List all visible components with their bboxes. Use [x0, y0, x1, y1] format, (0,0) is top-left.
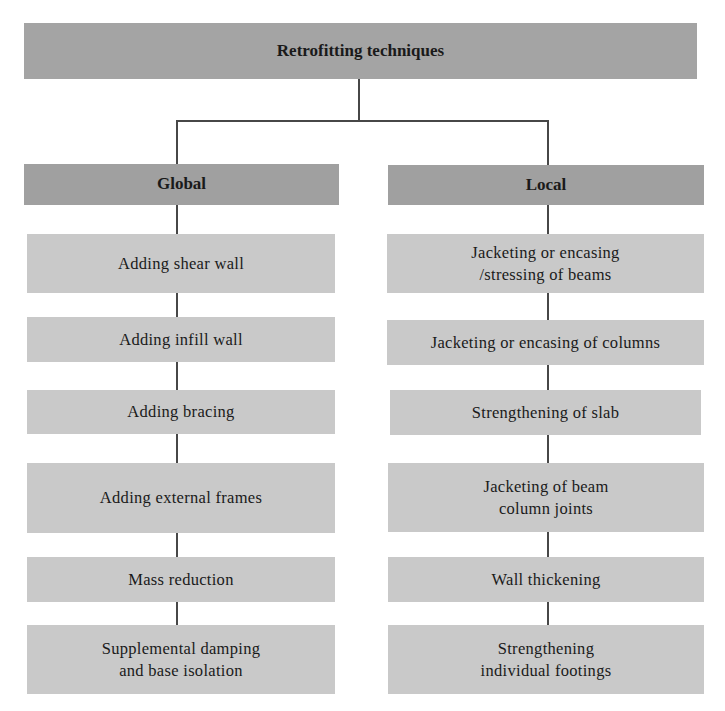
local-connector-3 [547, 365, 549, 390]
root-node: Retrofitting techniques [24, 23, 697, 79]
global-connector-2 [176, 293, 178, 317]
item-label: Adding infill wall [119, 329, 243, 350]
branch-header-global: Global [24, 164, 339, 205]
local-item-wall-thickening: Wall thickening [388, 557, 704, 602]
global-connector-1 [176, 205, 178, 235]
global-item-damping-isolation: Supplemental damping and base isolation [27, 625, 335, 694]
item-label: Mass reduction [128, 569, 233, 590]
item-label: Jacketing or encasing of columns [431, 332, 661, 353]
global-connector-3 [176, 362, 178, 390]
global-item-external-frames: Adding external frames [27, 463, 335, 533]
item-label: Wall thickening [491, 569, 600, 590]
local-connector-2 [547, 293, 549, 320]
local-connector-1 [547, 205, 549, 235]
global-item-bracing: Adding bracing [27, 390, 335, 434]
item-label: Adding external frames [100, 487, 262, 508]
branch-header-label: Local [526, 174, 567, 196]
local-item-slab: Strengthening of slab [390, 390, 701, 435]
global-item-shear-wall: Adding shear wall [27, 234, 335, 293]
local-item-beams: Jacketing or encasing /stressing of beam… [387, 234, 704, 293]
branch-header-local: Local [388, 165, 704, 205]
global-connector-5 [176, 533, 178, 557]
global-connector-4 [176, 434, 178, 463]
local-connector-6 [547, 602, 549, 625]
branch-header-label: Global [157, 173, 206, 195]
global-item-mass-reduction: Mass reduction [27, 557, 335, 602]
root-stem-connector [358, 79, 360, 121]
item-label: Jacketing or encasing /stressing of beam… [471, 242, 619, 285]
branch-horizontal-connector [176, 120, 549, 122]
local-item-footings: Strengthening individual footings [388, 625, 704, 694]
local-connector-5 [547, 532, 549, 557]
local-connector-4 [547, 435, 549, 463]
root-label: Retrofitting techniques [277, 40, 444, 62]
local-item-columns: Jacketing or encasing of columns [387, 320, 704, 365]
item-label: Adding shear wall [118, 253, 244, 274]
local-item-beam-column-joints: Jacketing of beam column joints [388, 463, 704, 532]
global-connector-6 [176, 602, 178, 625]
item-label: Supplemental damping and base isolation [102, 638, 261, 681]
global-drop-connector [176, 120, 178, 165]
item-label: Adding bracing [127, 401, 234, 422]
item-label: Strengthening of slab [472, 402, 619, 423]
global-item-infill-wall: Adding infill wall [27, 317, 335, 362]
item-label: Jacketing of beam column joints [483, 476, 608, 519]
item-label: Strengthening individual footings [481, 638, 612, 681]
local-drop-connector [547, 120, 549, 166]
